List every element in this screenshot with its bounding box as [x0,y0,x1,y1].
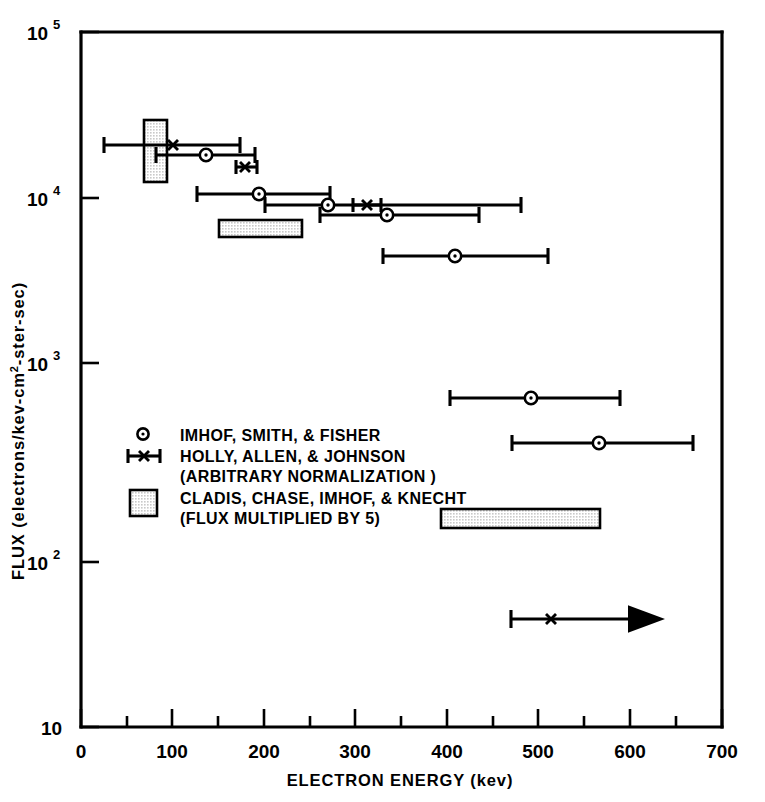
x-tick-label-1: 100 [156,741,188,762]
holly-point-1 [104,137,240,153]
y-axis: 10 5 10 4 10 3 10 2 10 [27,17,99,739]
imhof-point-5 [383,248,548,264]
x-tick-label-0: 0 [76,741,87,762]
x-tick-label-3: 300 [339,741,371,762]
legend-entry-imhof: IMHOF, SMITH, & FISHER [137,427,380,444]
y-axis-title-post: -ster-sec) [9,282,27,365]
x-axis: 0 100 200 300 400 500 600 700 ELECTRON E… [76,709,738,789]
legend-label-imhof: IMHOF, SMITH, & FISHER [180,427,381,444]
y-tick-exp-2: 3 [53,348,60,363]
legend-label-cladis: CLADIS, CHASE, IMHOF, & KNECHT [180,490,467,507]
y-tick-label-1: 10 [27,189,48,210]
open-circle-center-icon [141,432,144,435]
y-axis-title-pre: FLUX (electrons/kev-cm [9,372,27,580]
legend-sublabel-holly: (ARBITRARY NORMALIZATION ) [180,468,436,485]
gray-box-2 [219,220,302,237]
legend: IMHOF, SMITH, & FISHER HOLLY, ALLEN, & J… [128,427,467,527]
imhof-point-4 [320,207,479,223]
legend-sublabel-cladis: (FLUX MULTIPLIED BY 5) [180,510,380,527]
gray-box-3 [441,509,600,528]
series-imhof-points [156,147,693,451]
y-tick-label-4: 10 [41,718,62,739]
y-tick-label-2: 10 [27,354,48,375]
y-tick-exp-0: 5 [53,17,60,32]
svg-text:FLUX (electrons/kev-cm2-ster-s: FLUX (electrons/kev-cm2-ster-sec) [8,282,27,580]
x-tick-label-2: 200 [248,741,280,762]
y-tick-label-3: 10 [27,553,48,574]
legend-entry-cladis: CLADIS, CHASE, IMHOF, & KNECHT (FLUX MUL… [130,490,467,527]
y-tick-label-0: 10 [27,23,48,44]
axes-frame [81,32,722,727]
y-tick-exp-1: 4 [53,183,61,198]
series-holly-points [104,137,628,628]
legend-label-holly: HOLLY, ALLEN, & JOHNSON [180,448,406,465]
flux-vs-energy-chart: 10 5 10 4 10 3 10 2 10 FLUX (electrons/k… [0,0,765,802]
y-tick-exp-3: 2 [53,547,60,562]
gray-box-icon [130,490,157,516]
imhof-point-6 [450,390,620,406]
x-errorbar-icon [128,449,160,463]
series-cladis-boxes [144,120,600,528]
x-tick-label-5: 500 [522,741,554,762]
legend-entry-holly: HOLLY, ALLEN, & JOHNSON (ARBITRARY NORMA… [128,448,436,485]
holly-point-4-upper-limit [511,610,628,628]
y-axis-title-sup: 2 [8,365,20,372]
x-tick-label-4: 400 [431,741,463,762]
x-tick-label-6: 600 [614,741,646,762]
x-tick-label-7: 700 [706,741,738,762]
figure-page: 10 5 10 4 10 3 10 2 10 FLUX (electrons/k… [0,0,765,802]
imhof-point-7 [512,435,693,451]
x-axis-title: ELECTRON ENERGY (kev) [287,771,514,789]
y-axis-title: FLUX (electrons/kev-cm2-ster-sec) [8,282,27,580]
